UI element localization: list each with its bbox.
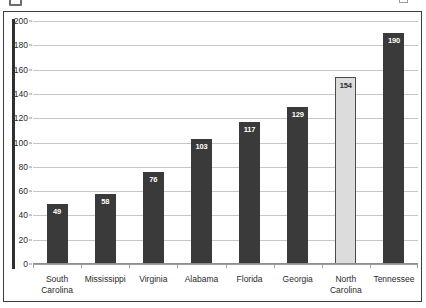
gridline: 100	[33, 143, 418, 144]
gridline: 140	[33, 94, 418, 95]
scan-artifact-glyph-right	[399, 0, 408, 3]
bar[interactable]: 117	[239, 122, 260, 264]
x-axis-ticks	[33, 264, 418, 268]
x-tick-mark	[370, 264, 371, 268]
bar-value-label: 190	[388, 37, 400, 45]
y-axis-tick-label: 180	[14, 41, 28, 50]
x-tick-mark	[177, 264, 178, 268]
x-tick-mark	[226, 264, 227, 268]
bar[interactable]: 190	[383, 33, 404, 264]
gridline: 60	[33, 191, 418, 192]
bar[interactable]: 58	[95, 194, 116, 264]
y-axis-tick-label: 140	[14, 90, 28, 99]
scan-artifact-glyph-left	[9, 0, 22, 6]
category-labels-group: South CarolinaMississippiVirginiaAlabama…	[33, 274, 418, 302]
bar[interactable]: 154	[335, 77, 356, 264]
bar-value-label: 58	[101, 198, 109, 206]
bar[interactable]: 76	[143, 172, 164, 264]
x-tick-mark	[81, 264, 82, 268]
bar-chart: 020406080100120140160180200 495876103117…	[3, 11, 422, 302]
gridline: 200	[33, 21, 418, 22]
x-tick-mark	[417, 264, 418, 268]
x-tick-mark	[129, 264, 130, 268]
gridline: 80	[33, 167, 418, 168]
y-tick-mark	[29, 93, 32, 94]
bar[interactable]: 49	[47, 204, 68, 264]
y-axis-tick-label: 100	[14, 138, 28, 147]
y-tick-mark	[29, 118, 32, 119]
bar-value-label: 117	[244, 126, 256, 134]
gridline: 120	[33, 118, 418, 119]
y-tick-mark	[29, 215, 32, 216]
x-tick-mark	[274, 264, 275, 268]
y-axis-tick-label: 20	[19, 235, 28, 244]
y-tick-mark	[29, 45, 32, 46]
x-tick-mark	[322, 264, 323, 268]
y-tick-mark	[29, 264, 32, 265]
y-tick-mark	[29, 166, 32, 167]
x-tick-mark	[33, 264, 34, 268]
bar[interactable]: 103	[191, 139, 212, 264]
bar[interactable]: 129	[287, 107, 308, 264]
y-axis-tick-label: 160	[14, 65, 28, 74]
bar-value-label: 103	[195, 143, 207, 151]
y-tick-mark	[29, 142, 32, 143]
bar-value-label: 76	[149, 176, 157, 184]
gridline: 160	[33, 70, 418, 71]
plot-area: 020406080100120140160180200 495876103117…	[33, 21, 418, 264]
y-tick-mark	[29, 191, 32, 192]
gridline: 40	[33, 215, 418, 216]
y-axis-tick-label: 0	[23, 260, 28, 269]
y-tick-mark	[29, 69, 32, 70]
gridline: 180	[33, 45, 418, 46]
y-axis-tick-label: 120	[14, 114, 28, 123]
bar-value-label: 154	[340, 82, 352, 90]
bar-value-label: 49	[53, 208, 61, 216]
bar-value-label: 129	[292, 111, 304, 119]
y-tick-mark	[29, 21, 32, 22]
y-axis-tick-label: 40	[19, 211, 28, 220]
y-axis-tick-label: 200	[14, 17, 28, 26]
gridline: 20	[33, 240, 418, 241]
y-tick-mark	[29, 239, 32, 240]
x-axis-category-label: Tennessee	[363, 274, 425, 285]
y-axis-tick-label: 60	[19, 187, 28, 196]
y-axis-tick-label: 80	[19, 163, 28, 172]
